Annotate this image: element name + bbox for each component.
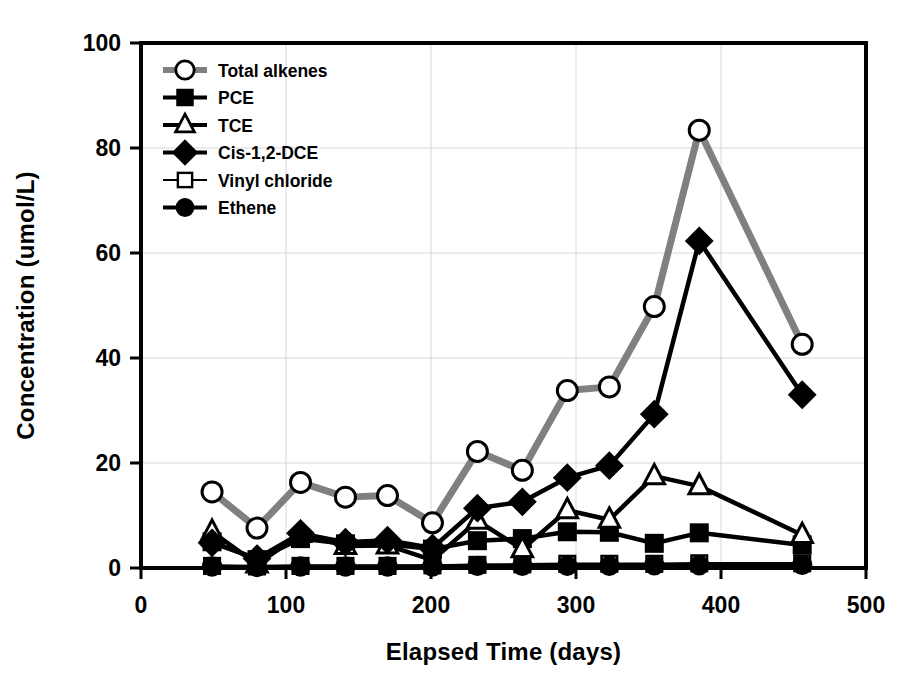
- x-tick-label: 200: [412, 592, 450, 618]
- marker-filled-circle: [600, 557, 618, 575]
- x-tick-label: 100: [267, 592, 305, 618]
- chart-background: [0, 0, 921, 690]
- marker-open-circle: [792, 334, 812, 354]
- x-axis-title: Elapsed Time (days): [386, 638, 621, 665]
- x-tick-label: 0: [135, 592, 148, 618]
- legend-label: PCE: [218, 88, 254, 108]
- marker-filled-circle: [423, 557, 441, 575]
- concentration-vs-time-line-chart: 0204060801000100200300400500 Elapsed Tim…: [0, 0, 921, 690]
- legend-label: Cis-1,2-DCE: [218, 143, 318, 163]
- marker-open-circle: [176, 61, 194, 79]
- marker-filled-circle: [645, 556, 663, 574]
- marker-filled-circle: [558, 557, 576, 575]
- y-tick-label: 40: [95, 345, 121, 371]
- marker-open-circle: [689, 120, 709, 140]
- legend-label: Vinyl chloride: [218, 171, 333, 191]
- marker-filled-circle: [468, 557, 486, 575]
- legend-label: TCE: [218, 116, 253, 136]
- marker-open-square: [178, 173, 192, 187]
- marker-open-circle: [291, 472, 311, 492]
- marker-open-circle: [422, 513, 442, 533]
- x-tick-label: 500: [847, 592, 885, 618]
- y-tick-label: 0: [108, 555, 121, 581]
- x-tick-label: 400: [702, 592, 740, 618]
- legend-item-ethene[interactable]: Ethene: [163, 198, 277, 218]
- marker-open-circle: [378, 486, 398, 506]
- marker-filled-circle: [177, 199, 194, 216]
- marker-open-circle: [335, 487, 355, 507]
- marker-filled-circle: [248, 558, 266, 576]
- marker-open-circle: [247, 518, 267, 538]
- marker-filled-circle: [690, 556, 708, 574]
- legend-label: Ethene: [218, 198, 277, 218]
- marker-filled-circle: [203, 557, 221, 575]
- y-axis-title: Concentration (umol/L): [12, 171, 39, 439]
- y-tick-label: 100: [83, 30, 121, 56]
- y-tick-label: 80: [95, 135, 121, 161]
- legend-item-total-alkenes[interactable]: Total alkenes: [163, 61, 328, 81]
- marker-open-circle: [644, 297, 664, 317]
- marker-open-circle: [599, 377, 619, 397]
- marker-filled-circle: [378, 557, 396, 575]
- marker-filled-circle: [336, 557, 354, 575]
- marker-filled-square: [691, 524, 708, 541]
- y-tick-label: 60: [95, 240, 121, 266]
- legend-label: Total alkenes: [218, 61, 328, 81]
- chart-figure: 0204060801000100200300400500 Elapsed Tim…: [0, 0, 921, 690]
- marker-filled-circle: [291, 557, 309, 575]
- marker-filled-square: [646, 535, 663, 552]
- marker-filled-square: [177, 90, 193, 106]
- marker-open-circle: [202, 482, 222, 502]
- x-tick-label: 300: [557, 592, 595, 618]
- marker-open-circle: [557, 381, 577, 401]
- y-tick-label: 20: [95, 450, 121, 476]
- marker-filled-circle: [793, 556, 811, 574]
- legend-item-vinyl-chloride[interactable]: Vinyl chloride: [163, 171, 333, 191]
- marker-open-circle: [467, 441, 487, 461]
- marker-open-circle: [512, 460, 532, 480]
- marker-filled-circle: [513, 557, 531, 575]
- marker-filled-square: [469, 532, 486, 549]
- legend-item-cis-1-2-dce[interactable]: Cis-1,2-DCE: [163, 141, 318, 165]
- marker-filled-square: [559, 523, 576, 540]
